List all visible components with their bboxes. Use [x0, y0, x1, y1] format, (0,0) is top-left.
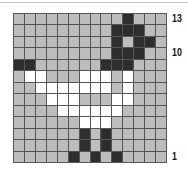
grid-cell	[25, 25, 35, 35]
grid-cell	[156, 106, 166, 116]
grid-cell	[14, 106, 24, 116]
grid-cell	[101, 48, 111, 58]
grid-cell	[58, 117, 68, 127]
grid-cell	[47, 48, 57, 58]
grid-cell	[80, 60, 90, 70]
grid-cell	[91, 48, 101, 58]
grid-cell	[14, 25, 24, 35]
grid-cell	[145, 140, 155, 150]
grid-cell	[69, 60, 79, 70]
grid-cell	[145, 152, 155, 162]
grid-cell	[80, 37, 90, 47]
grid-cell	[145, 60, 155, 70]
grid-cell	[134, 152, 144, 162]
grid-cell	[80, 152, 90, 162]
grid-cell	[91, 94, 101, 104]
row-label: 1	[172, 150, 177, 162]
grid-cell	[145, 94, 155, 104]
grid-cell	[112, 83, 122, 93]
grid-cell	[156, 117, 166, 127]
grid-cell	[145, 25, 155, 35]
grid-cell	[123, 83, 133, 93]
grid-cell	[25, 83, 35, 93]
grid-cell	[47, 37, 57, 47]
grid-cell	[112, 152, 122, 162]
grid-cell	[36, 152, 46, 162]
grid-cell	[123, 106, 133, 116]
grid-cell	[101, 25, 111, 35]
grid-cell	[145, 14, 155, 24]
grid-cell	[91, 14, 101, 24]
grid-cell	[123, 117, 133, 127]
grid-cell	[91, 129, 101, 139]
grid-cell	[101, 14, 111, 24]
grid-cell	[14, 83, 24, 93]
grid-cell	[47, 25, 57, 35]
grid-cell	[58, 129, 68, 139]
grid-cell	[80, 14, 90, 24]
grid-cell	[101, 37, 111, 47]
grid-cell	[145, 106, 155, 116]
grid-cell	[134, 94, 144, 104]
grid-cell	[112, 14, 122, 24]
grid-cell	[69, 152, 79, 162]
grid-cell	[91, 71, 101, 81]
grid-cell	[58, 60, 68, 70]
grid-cell	[58, 94, 68, 104]
grid-cell	[156, 140, 166, 150]
grid-cell	[156, 71, 166, 81]
grid-cell	[47, 106, 57, 116]
grid-cell	[36, 60, 46, 70]
grid-cell	[69, 94, 79, 104]
grid-cell	[80, 117, 90, 127]
grid-cell	[145, 129, 155, 139]
grid-cell	[123, 129, 133, 139]
grid-cell	[123, 37, 133, 47]
grid-cell	[25, 60, 35, 70]
grid-cell	[14, 94, 24, 104]
grid-cell	[58, 71, 68, 81]
grid-cell	[36, 48, 46, 58]
grid-cell	[69, 37, 79, 47]
grid-cell	[134, 48, 144, 58]
grid-cell	[112, 25, 122, 35]
grid-cell	[101, 117, 111, 127]
grid-cell	[14, 71, 24, 81]
grid-cell	[145, 37, 155, 47]
grid-cell	[112, 37, 122, 47]
grid-cell	[101, 140, 111, 150]
grid-cell	[25, 140, 35, 150]
grid-cell	[123, 48, 133, 58]
grid-cell	[14, 37, 24, 47]
grid-cell	[58, 48, 68, 58]
grid-cell	[36, 71, 46, 81]
grid-cell	[69, 117, 79, 127]
grid-cell	[101, 60, 111, 70]
grid-cell	[101, 71, 111, 81]
grid-cell	[91, 117, 101, 127]
grid-cell	[123, 152, 133, 162]
grid-cell	[134, 106, 144, 116]
grid-cell	[80, 129, 90, 139]
grid-cell	[58, 14, 68, 24]
grid-cell	[112, 94, 122, 104]
grid-cell	[25, 71, 35, 81]
grid-cell	[47, 152, 57, 162]
grid-cell	[58, 25, 68, 35]
grid-cell	[36, 106, 46, 116]
grid-cell	[58, 37, 68, 47]
grid-cell	[25, 129, 35, 139]
grid-cell	[80, 25, 90, 35]
pattern-grid	[13, 13, 167, 163]
grid-cell	[101, 106, 111, 116]
grid-cell	[156, 14, 166, 24]
grid-cell	[134, 60, 144, 70]
grid-cell	[134, 129, 144, 139]
grid-cell	[112, 117, 122, 127]
grid-cell	[112, 48, 122, 58]
grid-cell	[69, 48, 79, 58]
grid-cell	[134, 25, 144, 35]
grid-cell	[47, 60, 57, 70]
grid-cell	[112, 106, 122, 116]
grid-cell	[123, 94, 133, 104]
